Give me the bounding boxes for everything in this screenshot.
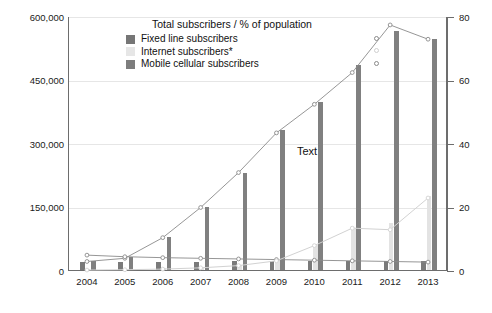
- line-marker-2-2009: [275, 259, 279, 263]
- line-marker-1-2010: [312, 258, 316, 262]
- legend-item-mobile-cellular: Mobile cellular subscribers: [126, 59, 426, 71]
- line-marker-1-2004: [85, 253, 89, 257]
- chart-container: 600,000 450,000 300,000 150,000 0 80 60 …: [0, 0, 492, 313]
- line-marker-2-2006: [161, 267, 165, 271]
- legend-title: Total subscribers / % of population: [152, 18, 426, 31]
- chart-legend: Total subscribers / % of population Fixe…: [126, 18, 426, 71]
- line-marker-0-2013: [426, 37, 430, 41]
- line-marker-2-2013: [426, 196, 430, 200]
- line-marker-1-2005: [123, 255, 127, 259]
- line-marker-0-2009: [275, 131, 279, 135]
- legend-marker-fixed-line-icon: [374, 36, 379, 41]
- line-marker-2-2004: [85, 268, 89, 272]
- line-marker-0-2011: [350, 71, 354, 75]
- line-marker-1-2013: [426, 260, 430, 264]
- line-marker-2-2010: [312, 244, 316, 248]
- legend-swatch-mobile-cellular-icon: [126, 60, 135, 69]
- line-marker-0-2006: [161, 236, 165, 240]
- line-marker-0-2007: [199, 206, 203, 210]
- legend-swatch-fixed-line-icon: [126, 35, 135, 44]
- legend-label-fixed-line: Fixed line subscribers: [141, 34, 238, 44]
- line-marker-0-2010: [312, 102, 316, 106]
- line-series-1: [87, 255, 428, 262]
- legend-marker-internet-icon: [374, 48, 379, 53]
- line-marker-1-2008: [237, 257, 241, 261]
- line-marker-2-2012: [388, 228, 392, 232]
- line-marker-0-2008: [237, 171, 241, 175]
- line-marker-0-2004: [85, 260, 89, 264]
- legend-label-internet: Internet subscribers*: [141, 47, 233, 57]
- legend-label-mobile-cellular: Mobile cellular subscribers: [141, 59, 259, 69]
- legend-marker-mobile-cellular-icon: [374, 61, 379, 66]
- legend-swatch-internet-icon: [126, 47, 135, 56]
- x-axis-label-2013: 2013: [406, 277, 450, 287]
- line-marker-2-2007: [199, 266, 203, 270]
- line-marker-1-2007: [199, 256, 203, 260]
- line-marker-2-2011: [350, 226, 354, 230]
- chart-annotation-text: Text: [297, 146, 317, 157]
- line-marker-2-2005: [123, 268, 127, 272]
- line-marker-1-2006: [161, 256, 165, 260]
- legend-item-fixed-line: Fixed line subscribers: [126, 34, 426, 46]
- line-marker-1-2011: [350, 259, 354, 263]
- line-marker-2-2008: [237, 264, 241, 268]
- legend-item-internet: Internet subscribers*: [126, 46, 426, 58]
- line-marker-1-2012: [388, 260, 392, 264]
